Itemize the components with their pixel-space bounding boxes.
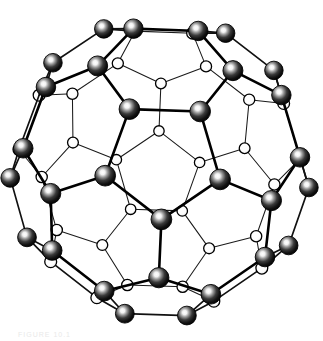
bond-back	[73, 143, 116, 160]
bond-back	[245, 100, 250, 148]
atom-front	[44, 53, 63, 72]
atom-back	[244, 94, 255, 105]
atom-front	[265, 61, 284, 80]
atom-front	[119, 99, 140, 120]
atom-back	[251, 231, 262, 242]
bond-back	[42, 143, 73, 177]
atom-back	[125, 204, 135, 214]
atom-front	[36, 77, 56, 97]
atom-front	[201, 284, 221, 304]
atom-front	[300, 178, 319, 197]
atom-front	[279, 236, 298, 255]
atom-front	[41, 183, 61, 203]
atom-front	[177, 306, 196, 325]
atom-front	[151, 209, 172, 230]
bond-back	[200, 148, 245, 162]
atom-back	[156, 78, 167, 89]
atom-back	[67, 88, 78, 99]
atom-front	[42, 241, 62, 261]
bond-back	[159, 131, 200, 162]
fullerene-figure: FIGURE 10.1	[0, 0, 323, 341]
atom-back	[112, 58, 123, 69]
atom-front	[261, 191, 281, 211]
atom-front	[216, 24, 234, 42]
bond-back	[118, 63, 161, 83]
bond-back	[159, 83, 161, 130]
bond-back	[57, 230, 103, 245]
atom-back	[154, 126, 164, 136]
bond-back	[183, 248, 209, 286]
atom-front	[272, 85, 291, 104]
atom-front	[290, 148, 310, 168]
bond-back	[102, 209, 130, 245]
bond-back	[72, 94, 73, 143]
atom-back	[200, 61, 211, 72]
atom-back	[194, 157, 204, 167]
atom-front	[95, 165, 116, 186]
atom-back	[204, 243, 215, 254]
atom-front	[189, 21, 208, 40]
atom-front	[13, 138, 33, 158]
c60-molecule-diagram	[0, 0, 323, 341]
bond-back	[209, 236, 256, 248]
bond-back	[161, 66, 206, 83]
bond-back	[116, 131, 159, 160]
atom-front	[223, 61, 243, 81]
atom-back	[239, 143, 250, 154]
atom-front	[88, 56, 108, 76]
atom-front	[190, 101, 211, 122]
atom-front	[210, 169, 231, 190]
bond-back	[182, 211, 209, 248]
caption-remnant: FIGURE 10.1	[18, 331, 71, 338]
bond-mid	[214, 268, 262, 301]
bond-back	[245, 148, 275, 184]
atom-back	[97, 240, 108, 251]
atom-front	[115, 304, 134, 323]
bond-back	[102, 245, 127, 285]
atom-front	[124, 19, 143, 38]
atom-layer-front	[1, 19, 318, 325]
atom-front	[255, 247, 275, 267]
atom-front	[149, 268, 169, 288]
atom-front	[1, 169, 20, 188]
atom-front	[18, 228, 37, 247]
atom-front	[94, 281, 114, 301]
atom-front	[95, 20, 114, 39]
atom-back	[68, 137, 79, 148]
